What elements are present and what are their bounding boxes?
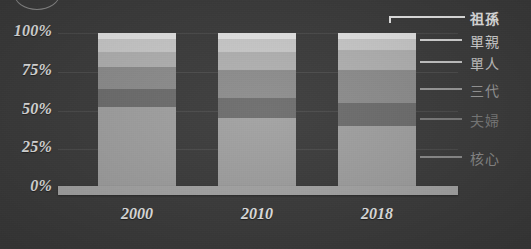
legend-leader-line-夫婦 xyxy=(420,118,462,120)
legend-bracket-祖孫 xyxy=(389,16,465,18)
legend-leader-line-三代 xyxy=(420,88,462,90)
legend-leader-line-單人 xyxy=(420,61,462,63)
legend-label-核心[interactable]: 核心 xyxy=(470,148,499,168)
legend-label-祖孫[interactable]: 祖孫 xyxy=(470,8,499,28)
legend-leader-line-核心 xyxy=(420,156,462,158)
legend-label-單人[interactable]: 單人 xyxy=(470,53,499,73)
legend-label-三代[interactable]: 三代 xyxy=(470,80,499,100)
legend-bracket-drop-祖孫 xyxy=(389,16,391,23)
legend-label-單親[interactable]: 單親 xyxy=(470,31,499,51)
legend-leader-line-單親 xyxy=(420,39,462,41)
chart-legend: 祖孫單親單人三代夫婦核心 xyxy=(0,0,531,249)
legend-label-夫婦[interactable]: 夫婦 xyxy=(470,110,499,130)
